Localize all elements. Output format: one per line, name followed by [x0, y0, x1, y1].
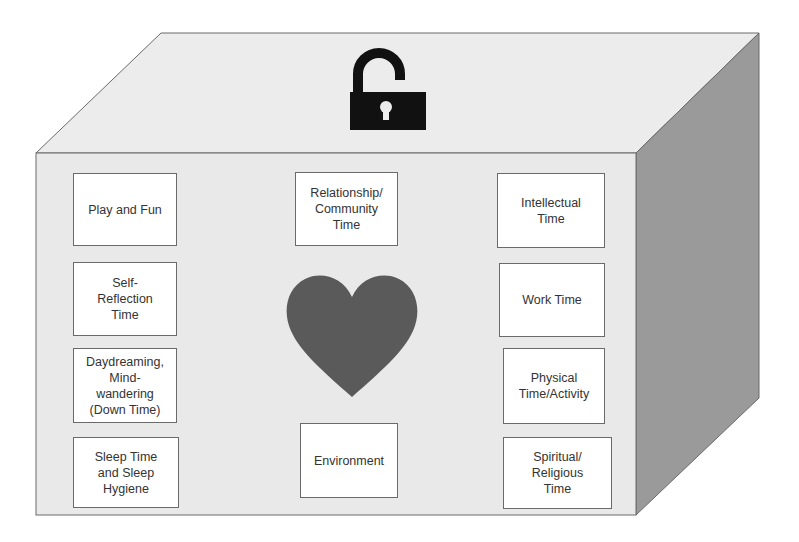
card-environment: Environment [300, 423, 398, 498]
card-label: Work Time [522, 292, 582, 308]
card-label: Physical [519, 370, 589, 386]
heart-icon [285, 273, 419, 398]
card-daydreaming-mind-wandering: Daydreaming, Mind- wandering (Down Time) [73, 348, 177, 423]
card-label: (Down Time) [86, 402, 164, 418]
card-intellectual-time: Intellectual Time [497, 173, 605, 248]
card-label: Time [532, 481, 583, 497]
card-label: Hygiene [95, 481, 158, 497]
card-sleep-time-and-sleep-hygiene: Sleep Time and Sleep Hygiene [73, 437, 179, 508]
card-label: Religious [532, 465, 583, 481]
card-label: Play and Fun [88, 202, 162, 218]
card-label: Self- [97, 275, 153, 291]
card-label: Sleep Time [95, 449, 158, 465]
card-label: Environment [314, 453, 384, 469]
card-play-and-fun: Play and Fun [73, 173, 177, 246]
card-label: Relationship/ [310, 185, 382, 201]
card-label: Community [310, 201, 382, 217]
card-label: Time [521, 211, 581, 227]
card-label: Time [310, 217, 382, 233]
card-label: Time/Activity [519, 386, 589, 402]
card-spiritual-religious-time: Spiritual/ Religious Time [503, 437, 612, 509]
card-label: Spiritual/ [532, 449, 583, 465]
card-work-time: Work Time [499, 263, 605, 337]
card-label: Reflection [97, 291, 153, 307]
card-label: Time [97, 307, 153, 323]
card-label: wandering [86, 386, 164, 402]
card-label: Daydreaming, [86, 354, 164, 370]
card-label: and Sleep [95, 465, 158, 481]
card-label: Intellectual [521, 195, 581, 211]
card-physical-time-activity: Physical Time/Activity [503, 348, 605, 424]
card-label: Mind- [86, 370, 164, 386]
diagram-canvas: Play and Fun Self- Reflection Time Daydr… [0, 0, 799, 542]
card-relationship-community-time: Relationship/ Community Time [295, 172, 398, 246]
card-self-reflection-time: Self- Reflection Time [73, 262, 177, 336]
unlocked-padlock-icon [346, 48, 426, 130]
